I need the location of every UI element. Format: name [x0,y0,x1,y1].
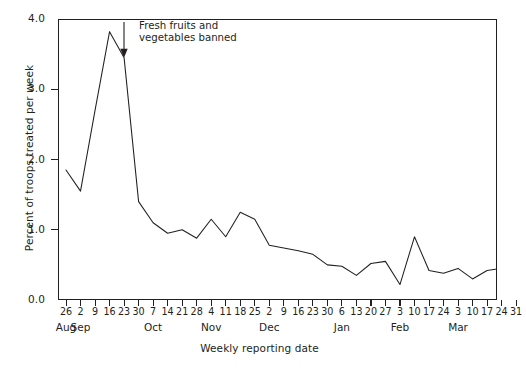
month-label: Dec [239,322,299,333]
y-tick-label: 4.0 [5,13,45,24]
data-series-line [58,19,497,300]
month-label: Oct [123,322,183,333]
month-label: Nov [181,322,241,333]
annotation-label: Fresh fruits and vegetables banned [139,20,269,45]
y-tick-label: 3.0 [5,83,45,94]
month-label: Feb [370,322,430,333]
month-label: Mar [428,322,488,333]
y-tick-label: 2.0 [5,154,45,165]
month-label: Jan [312,322,372,333]
y-tick-label: 0.0 [5,294,45,305]
y-tick-label: 1.0 [5,224,45,235]
down-arrow-icon [118,22,130,58]
x-axis-title: Weekly reporting date [0,342,519,354]
x-tick-label: 31 [503,307,526,317]
month-label: Sep [51,322,111,333]
